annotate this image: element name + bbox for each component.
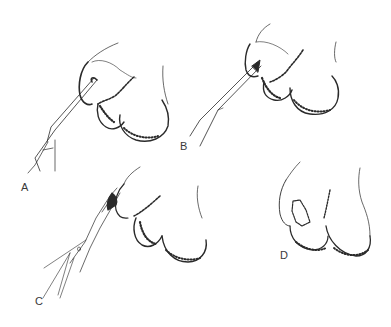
panel-label-c: C — [35, 296, 43, 307]
panel-label-a: A — [21, 182, 28, 193]
panel-a-drawing — [28, 43, 169, 173]
panel-d-drawing — [279, 162, 370, 256]
panel-c-drawing — [43, 167, 206, 298]
panel-label-b: B — [180, 141, 187, 152]
panel-b-drawing — [190, 24, 339, 146]
panel-label-d: D — [280, 250, 288, 261]
surgical-illustration-figure: A B C D — [0, 0, 391, 327]
line-drawing — [0, 0, 391, 327]
